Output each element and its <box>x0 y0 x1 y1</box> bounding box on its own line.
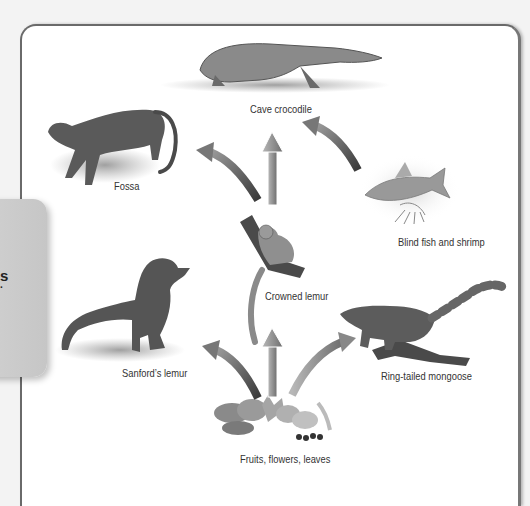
label-cave-crocodile: Cave crocodile <box>250 103 312 115</box>
arrow-producers-to-sanfords-lemur <box>202 340 258 398</box>
card-text-fragment: . <box>0 279 3 290</box>
label-sanfords-lemur: Sanford’s lemur <box>122 367 187 379</box>
label-fossa: Fossa <box>114 180 139 192</box>
arrow-producers-to-crowned-lemur <box>262 328 283 397</box>
cave-crocodile-image <box>160 44 390 93</box>
arrow-fish-to-crocodile <box>302 116 358 170</box>
arrow-producers-to-mongoose <box>292 332 356 395</box>
blind-fish-shrimp-image <box>360 155 460 225</box>
label-ring-tailed-mongoose: Ring-tailed mongoose <box>381 370 472 382</box>
ring-tailed-mongoose-image <box>340 285 503 366</box>
fruits-flowers-leaves-image <box>214 395 330 441</box>
label-blind-fish-shrimp: Blind fish and shrimp <box>398 236 485 248</box>
label-fruits-flowers-leaves: Fruits, flowers, leaves <box>240 453 330 465</box>
fossa-image <box>48 110 176 185</box>
arrow-crowned-lemur-to-fossa <box>196 142 258 200</box>
sanfords-lemur-image <box>55 258 190 362</box>
side-info-card: s . <box>0 199 47 377</box>
arrow-crowned-lemur-to-crocodile <box>262 132 283 205</box>
crowned-lemur-image <box>240 215 305 342</box>
label-crowned-lemur: Crowned lemur <box>265 290 328 302</box>
